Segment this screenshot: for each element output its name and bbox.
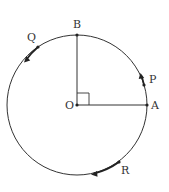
circle-diagram: B Q P O A R: [0, 0, 169, 192]
label-A: A: [150, 99, 160, 112]
point-O: [75, 103, 78, 106]
label-Q: Q: [27, 31, 36, 44]
arrow-R-arc: [94, 162, 119, 174]
label-B: B: [73, 18, 81, 31]
point-A: [145, 103, 148, 106]
point-Q: [36, 45, 39, 48]
right-angle-marker: [77, 93, 89, 105]
label-O: O: [65, 99, 74, 112]
point-P: [142, 83, 145, 86]
arrow-R-icon: [91, 171, 98, 177]
point-B: [75, 33, 78, 36]
label-R: R: [121, 164, 130, 177]
label-P: P: [149, 73, 157, 86]
